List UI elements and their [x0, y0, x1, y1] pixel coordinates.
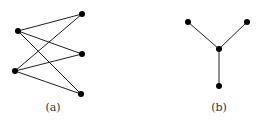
graph-edge	[219, 22, 247, 49]
graph-edge	[15, 71, 81, 94]
bipartite-graph-a	[12, 11, 85, 97]
graph-node	[79, 11, 85, 17]
graph-node	[79, 51, 85, 57]
graph-edge	[18, 31, 82, 54]
graph-node	[216, 83, 222, 89]
graph-node	[185, 19, 191, 25]
diagram-canvas: (a) (b)	[0, 0, 261, 122]
caption-b: (b)	[211, 101, 227, 114]
caption-a: (a)	[45, 101, 60, 114]
graph-node	[216, 46, 222, 52]
graph-node	[15, 28, 21, 34]
star-graph-b	[185, 19, 250, 89]
graph-edge	[188, 22, 219, 49]
graph-node	[78, 91, 84, 97]
graph-node	[244, 19, 250, 25]
graph-node	[12, 68, 18, 74]
